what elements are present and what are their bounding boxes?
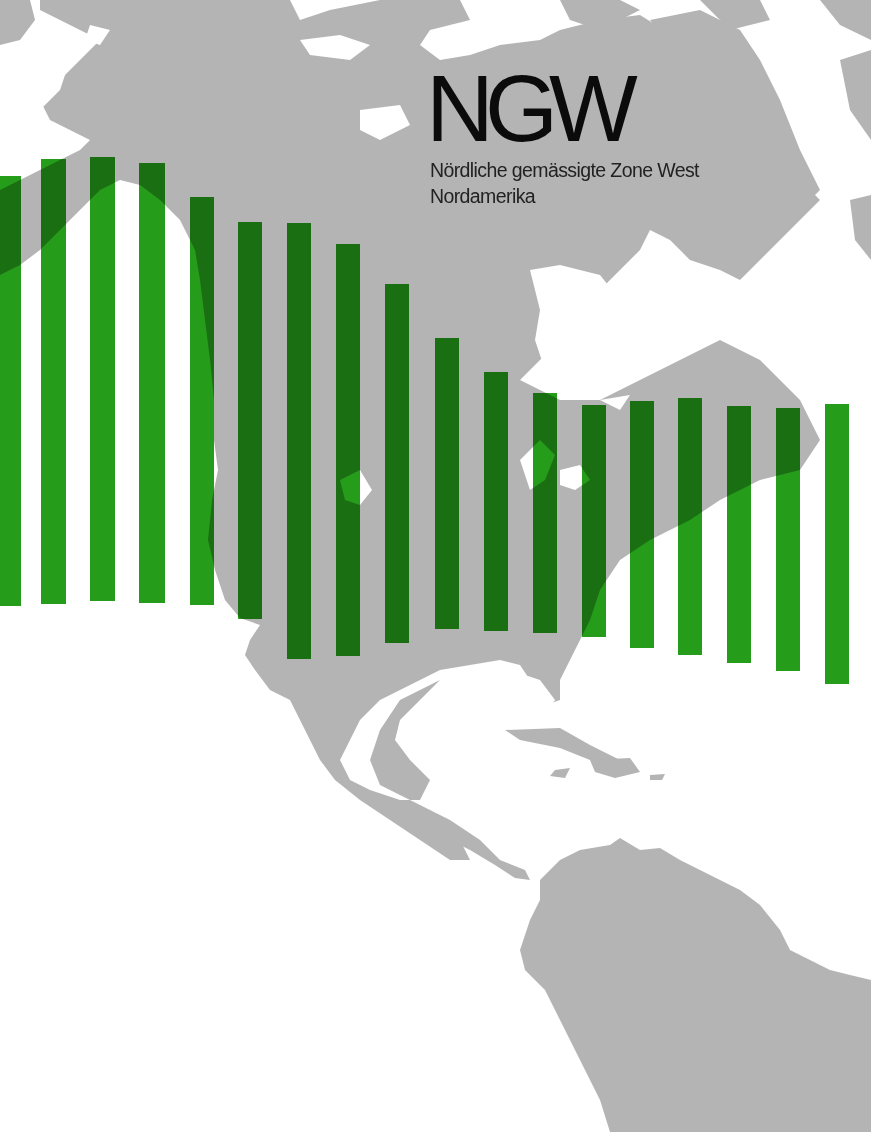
bar-8	[336, 244, 360, 656]
bar-4	[139, 163, 165, 603]
bar-14	[630, 401, 654, 648]
bar-5	[190, 197, 214, 605]
bar-18	[825, 404, 849, 684]
bar-13	[582, 405, 606, 637]
bar-17	[776, 408, 800, 671]
bar-16	[727, 406, 751, 663]
bar-3	[90, 157, 115, 601]
bar-1	[0, 176, 21, 606]
bar-15	[678, 398, 702, 655]
bar-7	[287, 223, 311, 659]
bar-9	[385, 284, 409, 643]
bar-11	[484, 372, 508, 631]
title-block: NGW Nördliche gemässigte Zone West Norda…	[430, 62, 699, 208]
page-title: NGW	[426, 62, 699, 156]
subtitle-zone: Nördliche gemässigte Zone West	[430, 158, 699, 182]
bar-12	[533, 393, 557, 633]
subtitle-region: Nordamerika	[430, 184, 699, 208]
bar-2	[41, 159, 66, 604]
bar-10	[435, 338, 459, 629]
bar-6	[238, 222, 262, 619]
